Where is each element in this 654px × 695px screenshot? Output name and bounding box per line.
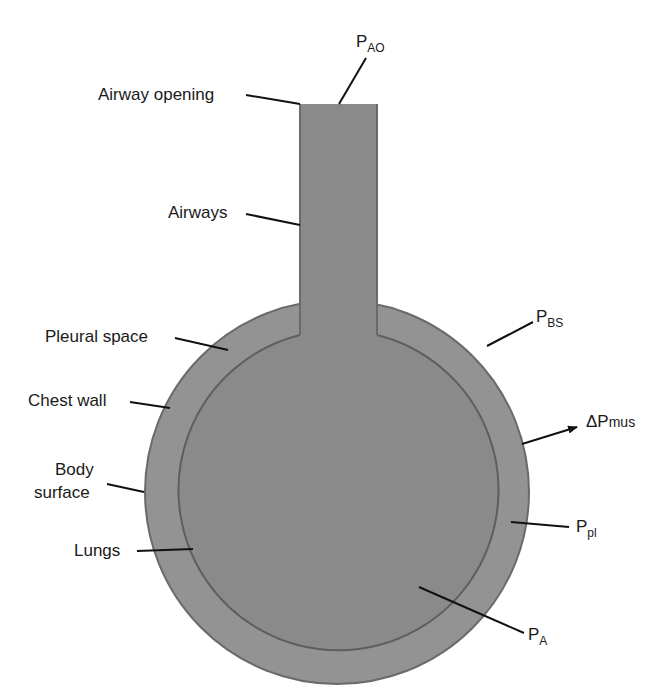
chest-wall-leader (130, 402, 170, 408)
body-surface-label-line1: Body (55, 460, 94, 479)
airways-label: Airways (168, 203, 228, 222)
pleural-space-label: Pleural space (45, 327, 148, 346)
lungs-shape (179, 104, 499, 650)
airway-opening-leader (246, 95, 300, 104)
chest-wall-label: Chest wall (28, 391, 106, 410)
p-pl-label: Ppl (576, 517, 597, 540)
p-ao-label: PAO (356, 32, 385, 55)
p-bs-leader (487, 322, 533, 346)
p-ao-leader (339, 58, 366, 104)
p-bs-label: PBS (536, 307, 563, 330)
lungs-label: Lungs (74, 541, 120, 560)
body-surface-leader (107, 484, 144, 492)
delta-p-mus-label: ΔPmus (586, 412, 635, 431)
airway-opening-label: Airway opening (98, 85, 214, 104)
body-surface-label-line2: surface (34, 483, 90, 502)
airways-leader (246, 214, 300, 225)
p-a-label: PA (528, 625, 547, 648)
delta-p-mus-arrow (522, 427, 577, 444)
respiratory-system-diagram: Airway opening PAO Airways Pleural space… (0, 0, 654, 695)
